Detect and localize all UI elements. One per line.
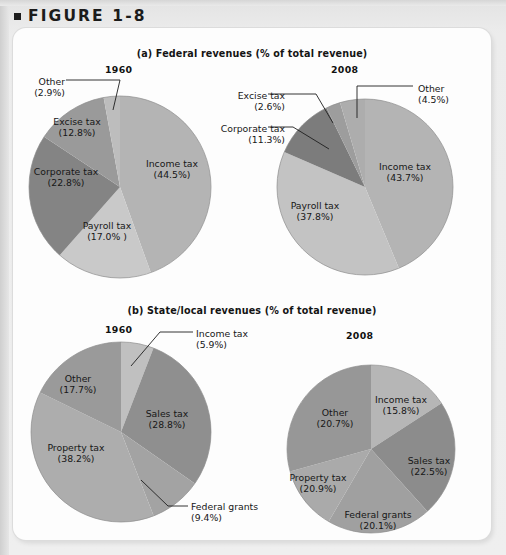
label-federal-2008-corporate: Corporate tax (11.3%) — [187, 123, 285, 146]
label-federal-1960-payroll: Payroll tax (17.0% ) — [64, 220, 150, 243]
pie-chart-federal-2008 — [276, 98, 454, 276]
figure-bullet-icon — [14, 13, 21, 20]
panel-a-title: (a) Federal revenues (% of total revenue… — [13, 48, 491, 59]
label-federal-1960-corporate: Corporate tax (22.8%) — [18, 166, 114, 189]
pie-chart-statelocal-1960 — [30, 341, 212, 523]
label-statelocal-1960-other: Other (17.7%) — [43, 373, 113, 396]
scan-edge-shadow-left — [0, 0, 9, 555]
label-statelocal-2008-grants: Federal grants (20.1%) — [328, 509, 428, 532]
label-federal-2008-income: Income tax (43.7%) — [362, 161, 448, 184]
label-statelocal-2008-property: Property tax (20.9%) — [271, 472, 365, 495]
label-federal-1960-income: Income tax (44.5%) — [129, 158, 215, 181]
figure-card: (a) Federal revenues (% of total revenue… — [13, 28, 491, 540]
chart-federal-2008-year: 2008 — [331, 64, 358, 75]
label-statelocal-1960-property: Property tax (38.2%) — [29, 442, 123, 465]
label-federal-1960-excise: Excise tax (12.8%) — [37, 116, 117, 139]
label-statelocal-2008-other: Other (20.7%) — [300, 407, 370, 430]
page-background: FIGURE 1-8 (a) Federal revenues (% of to… — [0, 0, 506, 555]
figure-title: FIGURE 1-8 — [28, 7, 147, 25]
chart-statelocal-2008-year: 2008 — [346, 330, 373, 341]
label-statelocal-1960-income: Income tax (5.9%) — [196, 328, 291, 351]
chart-statelocal-1960-year: 1960 — [105, 324, 132, 335]
chart-federal-1960-year: 1960 — [105, 64, 132, 75]
label-statelocal-2008-sales: Sales tax (22.5%) — [390, 455, 468, 478]
label-statelocal-1960-sales: Sales tax (28.8%) — [128, 408, 206, 431]
label-federal-2008-excise: Excise tax (2.6%) — [205, 90, 285, 113]
label-statelocal-2008-income: Income tax (15.8%) — [358, 394, 444, 417]
label-federal-2008-other: Other (4.5%) — [418, 83, 484, 106]
figure-header: FIGURE 1-8 — [14, 4, 314, 28]
label-federal-1960-other: Other (2.9%) — [13, 76, 65, 99]
label-federal-2008-payroll: Payroll tax (37.8%) — [272, 200, 358, 223]
label-statelocal-1960-grants: Federal grants (9.4%) — [191, 501, 291, 524]
panel-b-title: (b) State/local revenues (% of total rev… — [13, 305, 491, 316]
